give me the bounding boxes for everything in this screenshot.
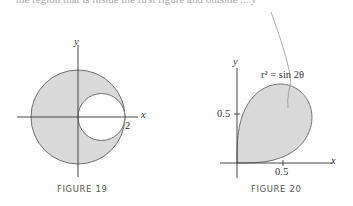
fig20-x-tick-label: 0.5 [275,166,288,177]
fig20-y-label: y [233,56,238,67]
fig19-tick-label: 2 [125,120,130,131]
figure-19-graphic [17,45,138,177]
fig20-y-tick-label: 0.5 [217,108,230,119]
fig19-x-label: x [141,109,146,120]
figure-19-caption: FIGURE 19 [57,184,107,194]
fig19-y-label: y [74,36,79,47]
figure-20-graphic [220,12,333,178]
diagram-canvas [0,0,353,206]
figure-20-caption: FIGURE 20 [251,184,301,194]
figure-page: the region that is inside the first figu… [0,0,353,206]
fig20-x-label: x [331,155,336,166]
fig20-curve-label: r² = sin 2θ [261,69,304,80]
